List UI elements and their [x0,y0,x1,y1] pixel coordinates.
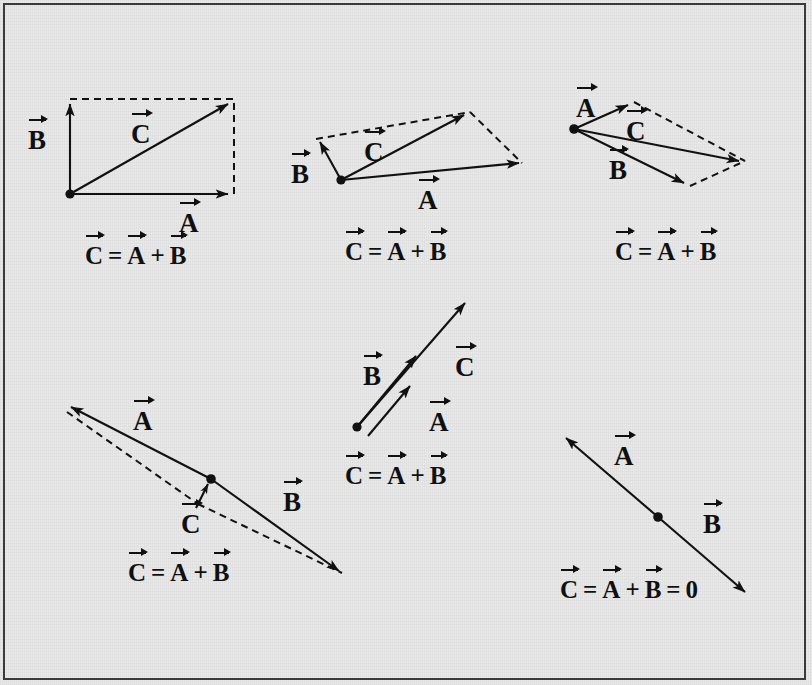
figure-page: B A C C = A + B B A C C = A + B A B C C … [0,0,812,685]
figure-border [3,3,806,680]
